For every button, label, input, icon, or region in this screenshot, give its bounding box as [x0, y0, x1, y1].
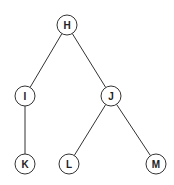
tree-node-H: H [57, 15, 77, 35]
tree-node-K: K [15, 154, 35, 174]
edge-J-M [117, 104, 151, 155]
tree-node-M: M [146, 154, 166, 174]
node-label: J [108, 91, 114, 102]
node-label: H [63, 20, 70, 31]
edge-J-L [74, 105, 105, 156]
edge-H-J [72, 34, 105, 88]
edges-group [25, 34, 150, 156]
edge-H-I [30, 34, 62, 88]
node-label: I [24, 91, 27, 102]
tree-node-I: I [15, 86, 35, 106]
tree-node-J: J [101, 86, 121, 106]
nodes-group: HIJKLM [15, 15, 166, 174]
tree-node-L: L [59, 154, 79, 174]
node-label: M [152, 159, 160, 170]
node-label: K [21, 159, 29, 170]
node-label: L [66, 159, 72, 170]
tree-diagram: HIJKLM [0, 0, 174, 185]
